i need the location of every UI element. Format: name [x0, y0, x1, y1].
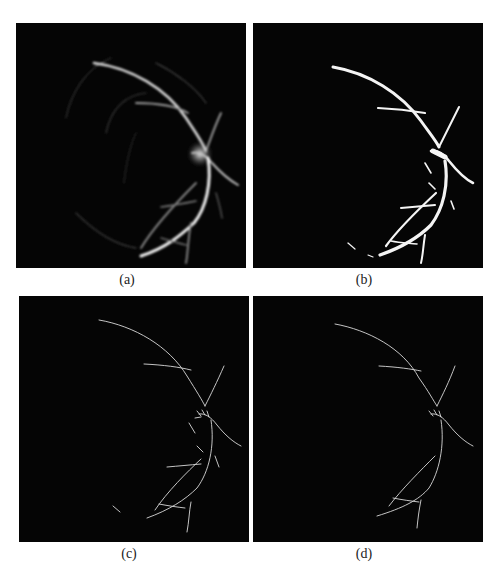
vessel-segmentation-image	[253, 23, 483, 268]
vessel-probability-image	[16, 23, 246, 268]
caption-a: (a)	[87, 272, 167, 288]
caption-b: (b)	[324, 272, 404, 288]
caption-d: (d)	[324, 546, 404, 562]
caption-c: (c)	[89, 546, 169, 562]
panel-c-skeleton	[19, 296, 249, 542]
vessel-pruned-skeleton-image	[253, 296, 483, 542]
vessel-skeleton-image	[19, 296, 249, 542]
panel-a-probability-map	[16, 23, 246, 268]
panel-d-pruned-skeleton	[253, 296, 483, 542]
panel-b-binary-segmentation	[253, 23, 483, 268]
